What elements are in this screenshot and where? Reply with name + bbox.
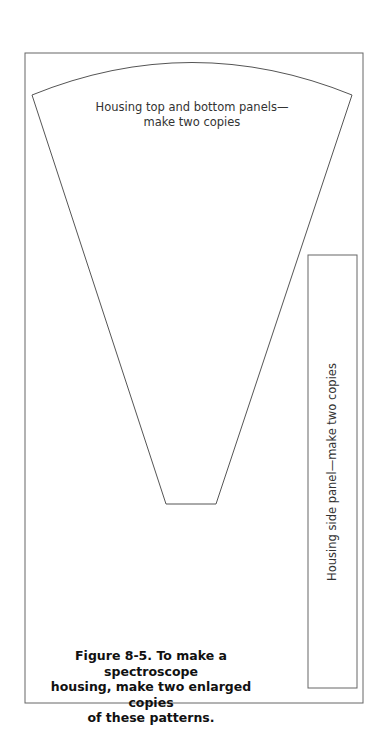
top-panel-label: Housing top and bottom panels— make two … [62,100,322,129]
caption-line2: housing, make two enlarged copies [28,679,274,710]
top-panel-label-line1: Housing top and bottom panels— [62,100,322,115]
figure-caption: Figure 8-5. To make a spectroscope housi… [28,648,274,726]
caption-line1: Figure 8-5. To make a spectroscope [28,648,274,679]
side-panel-label: Housing side panel—make two copies [325,363,339,581]
caption-line3: of these patterns. [28,710,274,726]
outer-frame [25,53,363,703]
top-panel-label-line2: make two copies [62,115,322,130]
